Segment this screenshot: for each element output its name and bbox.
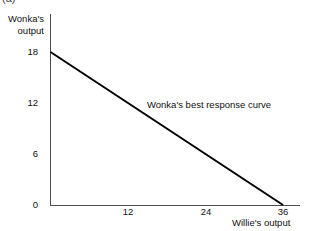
y-tick-label-0: 0 [8, 200, 38, 210]
y-tick-label-6: 6 [8, 149, 38, 159]
curve-annotation-label: Wonka's best response curve [147, 99, 271, 110]
y-tick-label-18: 18 [8, 47, 38, 57]
figure-panel: (a) Wonka's output Willie's output 0 6 1… [0, 0, 317, 231]
y-tick-label-12: 12 [8, 98, 38, 108]
panel-label: (a) [2, 0, 15, 4]
y-axis-title-line-1: Wonka's [0, 13, 44, 25]
x-tick-label-24: 24 [191, 207, 221, 217]
x-axis-title: Willie's output [232, 217, 290, 228]
x-tick-label-12: 12 [113, 207, 143, 217]
plot-area [0, 0, 317, 231]
wonka-best-response-curve [51, 52, 284, 205]
y-axis-title-line-2: output [0, 25, 44, 37]
x-tick-label-36: 36 [268, 207, 298, 217]
y-axis-title: Wonka's output [0, 13, 44, 36]
